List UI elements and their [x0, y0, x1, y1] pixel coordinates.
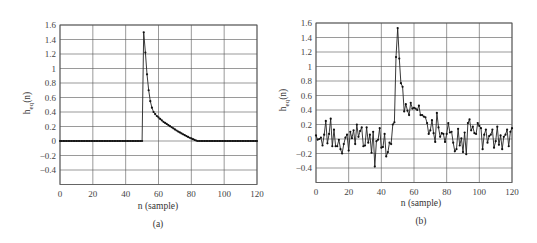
chart-a-gridlines [60, 25, 257, 185]
data-point [457, 128, 459, 130]
data-point [405, 103, 407, 105]
data-point [400, 82, 402, 84]
figure-canvas: −0.4−0.200.20.40.60.811.21.41.6 02040608… [0, 0, 537, 243]
data-point [495, 140, 497, 142]
y-tick-label: 0.4 [301, 105, 313, 115]
y-tick-label: 1.4 [301, 33, 313, 43]
data-point [431, 119, 433, 121]
y-tick-label: 1.6 [45, 20, 57, 30]
data-point [144, 51, 146, 53]
data-point [256, 140, 258, 142]
chart-a-caption: (a) [153, 219, 164, 230]
data-point [464, 131, 466, 133]
data-point [509, 131, 511, 133]
data-point [385, 155, 387, 157]
data-point [480, 127, 482, 129]
data-point [403, 110, 405, 112]
data-point [344, 136, 346, 138]
data-point [504, 134, 506, 136]
data-point [475, 133, 477, 135]
data-point [444, 141, 446, 143]
x-tick-label: 0 [58, 189, 63, 199]
data-point [374, 165, 376, 167]
x-tick-label: 80 [442, 187, 452, 197]
data-point [491, 128, 493, 130]
data-point [379, 127, 381, 129]
chart-b-x-tick-labels: 020406080100120 [314, 187, 520, 197]
y-tick-label: 0.6 [301, 91, 313, 101]
chart-a-x-axis-label: n (sample) [138, 201, 178, 212]
data-point [141, 140, 143, 142]
data-point [490, 134, 492, 136]
data-point [331, 145, 333, 147]
data-point [151, 107, 153, 109]
data-point [384, 133, 386, 135]
data-point [333, 128, 335, 130]
data-point [496, 126, 498, 128]
chart-b-y-axis-label: heq(n) [278, 89, 291, 111]
data-point [369, 134, 371, 136]
data-point [397, 27, 399, 29]
data-point [467, 122, 469, 124]
y-tick-label: 1.6 [301, 18, 313, 28]
data-point [442, 133, 444, 135]
data-point [323, 134, 325, 136]
data-point [433, 132, 435, 134]
data-point [339, 148, 341, 150]
data-point [482, 148, 484, 150]
data-point [459, 144, 461, 146]
data-point [348, 150, 350, 152]
data-point [146, 73, 148, 75]
data-point [426, 122, 428, 124]
data-point [485, 128, 487, 130]
data-point [366, 126, 368, 128]
data-point [393, 121, 395, 123]
chart-b-caption: (b) [415, 216, 426, 227]
y-tick-label: 1.2 [301, 47, 312, 57]
y-tick-label: 1.4 [45, 35, 57, 45]
chart-a-x-tick-labels: 020406080100120 [58, 189, 265, 199]
y-tick-label: −0.2 [296, 149, 312, 159]
data-point [372, 131, 374, 133]
data-point [446, 133, 448, 135]
y-tick-label: −0.4 [296, 163, 313, 173]
data-point [498, 144, 500, 146]
chart-a-y-axis-label: heq(n) [22, 92, 35, 114]
data-point [477, 122, 479, 124]
data-point [465, 153, 467, 155]
y-tick-label: 0 [308, 134, 313, 144]
data-point [161, 119, 163, 121]
data-point [361, 126, 363, 128]
data-point [483, 134, 485, 136]
data-point [437, 126, 439, 128]
y-tick-label: 0.8 [45, 78, 57, 88]
y-tick-label: 1 [308, 62, 313, 72]
data-point [406, 110, 408, 112]
x-tick-label: 80 [187, 189, 197, 199]
y-tick-label: 0.4 [45, 107, 57, 117]
x-tick-label: 60 [154, 189, 164, 199]
x-tick-label: 20 [344, 187, 354, 197]
data-point [501, 148, 503, 150]
data-point [508, 145, 510, 147]
x-tick-label: 0 [314, 187, 319, 197]
data-point [447, 122, 449, 124]
data-point [424, 116, 426, 118]
chart-a-y-tick-labels: −0.4−0.200.20.40.60.811.21.41.6 [40, 20, 57, 175]
data-point [436, 112, 438, 114]
data-point [472, 126, 474, 128]
data-point [401, 86, 403, 88]
data-point [460, 137, 462, 139]
data-point [428, 133, 430, 135]
data-point [410, 102, 412, 104]
data-point [470, 129, 472, 131]
data-point [454, 150, 456, 152]
data-point [320, 136, 322, 138]
data-point [351, 137, 353, 139]
y-tick-label: 0.8 [301, 76, 313, 86]
y-tick-label: 1 [52, 64, 57, 74]
data-point [370, 152, 372, 154]
y-tick-label: 1.2 [45, 49, 56, 59]
data-point [486, 142, 488, 144]
data-point [321, 144, 323, 146]
